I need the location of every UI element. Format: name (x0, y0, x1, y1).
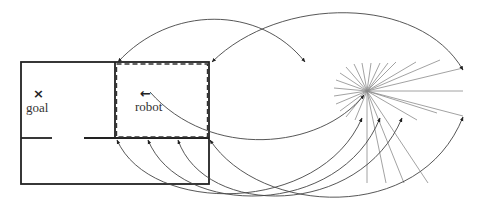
arc-bottom-right-corner (210, 117, 463, 197)
goal-marker-icon: × (33, 86, 44, 101)
floor-plan (21, 62, 209, 184)
robot-sensor-mapping-diagram: × goal ← robot (0, 0, 482, 217)
arc-bottom-3 (178, 118, 402, 196)
arc-top-right-corner (212, 13, 463, 70)
arc-bottom-1 (117, 118, 362, 194)
goal-label: goal (26, 100, 49, 115)
sensor-ray-fan (334, 60, 463, 183)
arc-robot-to-center (150, 92, 364, 140)
arc-top-left-corner (118, 19, 305, 62)
